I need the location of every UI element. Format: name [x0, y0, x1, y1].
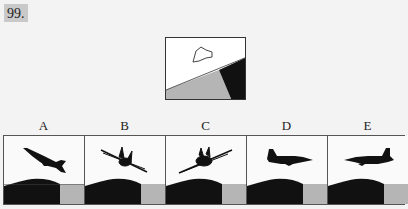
option-label-c: C — [165, 118, 246, 134]
option-panel-a[interactable] — [3, 136, 84, 204]
options-strip — [3, 135, 405, 205]
option-label-d: D — [246, 118, 327, 134]
option-labels: A B C D E — [3, 118, 402, 134]
option-label-a: A — [3, 118, 84, 134]
option-panel-e[interactable] — [327, 136, 408, 204]
option-panel-d[interactable] — [246, 136, 327, 204]
option-label-b: B — [84, 118, 165, 134]
option-panel-b[interactable] — [84, 136, 165, 204]
option-panel-c[interactable] — [165, 136, 246, 204]
question-number: 99. — [4, 4, 28, 22]
option-label-e: E — [327, 118, 408, 134]
reference-cockpit-view — [165, 37, 246, 100]
